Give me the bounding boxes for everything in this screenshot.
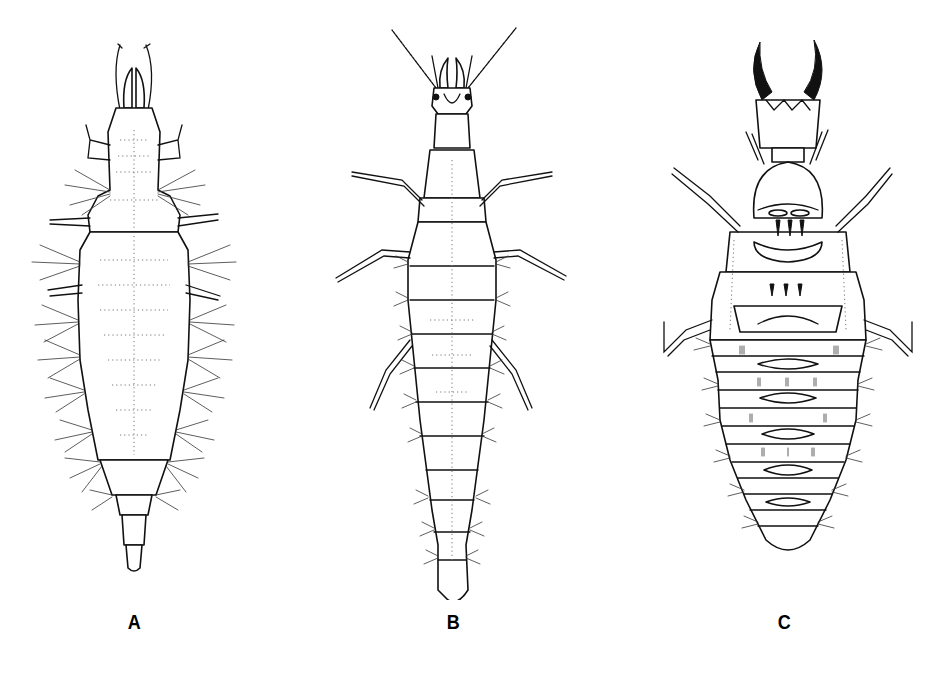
panel-label-b: B xyxy=(447,611,460,634)
panel-a-larva-drawing xyxy=(20,0,260,600)
panel-label-a: A xyxy=(128,611,141,634)
panel-c-larva-drawing xyxy=(650,0,926,600)
larva-b-illustration xyxy=(330,0,590,600)
larvae-figure: A B C xyxy=(0,0,926,683)
larva-c-illustration xyxy=(650,0,926,600)
panel-label-c: C xyxy=(778,611,791,634)
panel-b-larva-drawing xyxy=(330,0,590,600)
larva-a-illustration xyxy=(20,0,260,600)
